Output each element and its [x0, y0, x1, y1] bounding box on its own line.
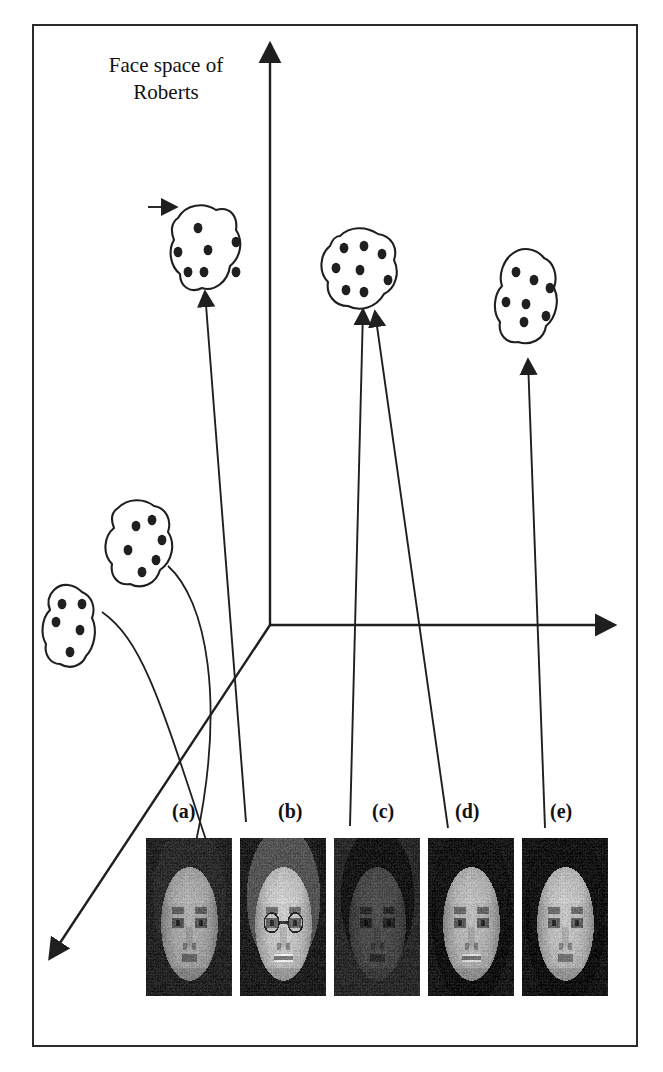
figure-title-line-1: Face space of — [56, 52, 276, 79]
face-label-c: (c) — [372, 800, 394, 823]
face-photo-c-image — [334, 838, 420, 996]
face-photo-e-image — [522, 838, 608, 996]
face-photo-b — [240, 838, 326, 996]
figure-title: Face space of Roberts — [56, 52, 276, 106]
face-photo-a — [146, 838, 232, 996]
face-photo-d-image — [428, 838, 514, 996]
face-photo-b-image — [240, 838, 326, 996]
face-photo-e — [522, 838, 608, 996]
face-label-e: (e) — [550, 800, 572, 823]
face-label-d: (d) — [455, 800, 479, 823]
face-label-a: (a) — [172, 800, 195, 823]
face-photo-a-image — [146, 838, 232, 996]
figure-canvas: Face space of Roberts (a)(b)(c)(d)(e) — [0, 0, 663, 1072]
figure-title-line-2: Roberts — [56, 79, 276, 106]
face-photo-d — [428, 838, 514, 996]
face-photo-c — [334, 838, 420, 996]
face-label-b: (b) — [278, 800, 302, 823]
